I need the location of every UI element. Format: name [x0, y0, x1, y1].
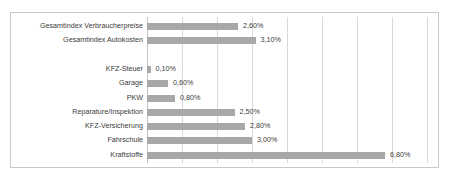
category-label: Kraftstoffe [110, 149, 143, 161]
bar-value-label: 2,80% [250, 120, 270, 132]
bar-value-label: 3,00% [257, 134, 277, 146]
category-label: Fahrschule [107, 134, 143, 146]
bar [147, 109, 235, 116]
bar-row: Gesamtindex Autokosten3,10% [147, 35, 434, 49]
bar [147, 137, 252, 144]
bar-value-label: 0,60% [173, 77, 193, 89]
bar-value-label: 2,60% [243, 20, 263, 32]
bar-row: Garage0,60% [147, 78, 434, 92]
bar [147, 37, 256, 44]
bar-value-label: 2,50% [240, 106, 260, 118]
bar-row: PKW0,80% [147, 93, 434, 107]
category-label: PKW [127, 92, 143, 104]
bar-value-label: 3,10% [261, 34, 281, 46]
plot-area: Gesamtindex Verbraucherpreise2,60%Gesamt… [147, 17, 434, 163]
category-label: Gesamtindex Autokosten [63, 34, 143, 46]
bar [147, 152, 385, 159]
bar-value-label: 0,10% [156, 63, 176, 75]
category-label: Reparature/Inspektion [72, 106, 143, 118]
category-label: KFZ-Steuer [106, 63, 143, 75]
bar-rows: Gesamtindex Verbraucherpreise2,60%Gesamt… [147, 17, 434, 163]
bar-row: Reparature/Inspektion2,50% [147, 107, 434, 121]
bar [147, 80, 168, 87]
bar-row: KFZ-Steuer0,10% [147, 64, 434, 78]
bar-value-label: 0,80% [180, 92, 200, 104]
bar [147, 23, 238, 30]
bar-row: Kraftstoffe6,80% [147, 150, 434, 164]
category-label: Garage [119, 77, 143, 89]
bar-row: Fahrschule3,00% [147, 135, 434, 149]
category-label: KFZ-Versicherung [85, 120, 143, 132]
bar-row: Gesamtindex Verbraucherpreise2,60% [147, 21, 434, 35]
bar [147, 66, 151, 73]
bar-row: KFZ-Versicherung2,80% [147, 121, 434, 135]
bar [147, 123, 245, 130]
chart-container: Gesamtindex Verbraucherpreise2,60%Gesamt… [10, 12, 439, 168]
bar [147, 95, 175, 102]
category-label: Gesamtindex Verbraucherpreise [40, 20, 143, 32]
bar-row [147, 50, 434, 64]
bar-value-label: 6,80% [390, 149, 410, 161]
